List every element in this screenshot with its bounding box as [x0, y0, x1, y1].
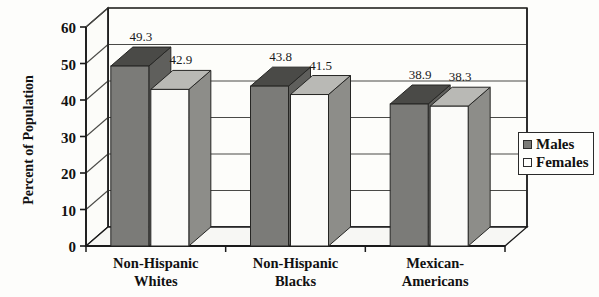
- x-axis-category-label: Non-Hispanic: [113, 255, 199, 271]
- bar-front-face: [390, 104, 428, 246]
- bar-side-face: [189, 70, 211, 246]
- legend-swatch-males: [523, 140, 532, 149]
- y-axis-tick-label: 40: [61, 93, 76, 109]
- bar-females-0[interactable]: [151, 70, 211, 246]
- y-axis-tick-label: 30: [61, 130, 76, 146]
- x-axis-category-label: Americans: [402, 273, 469, 289]
- bar-front-face: [291, 95, 329, 246]
- bar-side-face: [329, 76, 351, 246]
- bar-value-label: 38.3: [449, 69, 472, 84]
- y-axis-tick-label: 60: [61, 20, 76, 36]
- y-axis-tick-label: 20: [61, 166, 76, 182]
- y-axis-tick-label: 10: [61, 203, 76, 219]
- bar-front-face: [151, 89, 189, 246]
- legend-label-females: Females: [536, 155, 588, 170]
- bar-females-2[interactable]: [430, 87, 490, 246]
- bar-value-label: 41.5: [309, 58, 332, 73]
- bar-chart: Percent of Population 010203040506049.34…: [0, 0, 599, 297]
- bar-value-label: 43.8: [269, 49, 292, 64]
- x-axis-category-label: Blacks: [275, 273, 316, 289]
- x-axis-category-label: Mexican-: [406, 255, 464, 271]
- chart-legend: Males Females: [518, 132, 594, 175]
- legend-item-females[interactable]: Females: [523, 153, 588, 171]
- x-axis-category-label: Whites: [134, 273, 178, 289]
- bar-side-face: [468, 87, 490, 246]
- legend-label-males: Males: [536, 137, 574, 152]
- legend-swatch-females: [523, 158, 532, 167]
- plot-area: 010203040506049.342.943.841.538.938.3Non…: [0, 0, 599, 297]
- legend-item-males[interactable]: Males: [523, 135, 588, 153]
- bar-value-label: 49.3: [129, 29, 152, 44]
- bar-value-label: 42.9: [169, 52, 192, 67]
- bar-females-1[interactable]: [291, 76, 351, 246]
- bar-front-face: [251, 86, 289, 246]
- y-axis-tick-label: 0: [69, 239, 77, 255]
- x-axis-category-label: Non-Hispanic: [253, 255, 339, 271]
- bar-front-face: [430, 106, 468, 246]
- y-axis-tick-label: 50: [61, 57, 76, 73]
- bar-value-label: 38.9: [409, 67, 432, 82]
- bar-front-face: [111, 66, 149, 246]
